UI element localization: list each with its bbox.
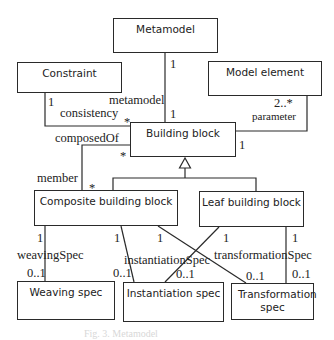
figure-caption: Fig. 3. Metamodel (84, 328, 158, 339)
mult-transformation-leaf: 1 (223, 232, 229, 244)
mult-member: * (89, 182, 95, 194)
class-constraint: Constraint (17, 62, 122, 93)
class-weaving-spec: Weaving spec (17, 281, 115, 320)
role-consistency: consistency (60, 107, 118, 119)
mult-instantiation-target-left: 0..1 (113, 267, 132, 279)
role-metamodel: metamodel (109, 94, 165, 106)
role-instantiationSpec: instantiationSpec (124, 254, 210, 266)
class-metamodel: Metamodel (113, 18, 218, 53)
mult-metamodel-top: 1 (170, 58, 176, 70)
uml-diagram: Metamodel Constraint Model element Build… (0, 0, 334, 340)
mult-weaving-source: 1 (37, 232, 43, 244)
role-weavingSpec: weavingSpec (17, 249, 84, 261)
class-instantiation-spec: Instantiation spec (123, 282, 224, 322)
mult-transformation-right-source: 1 (292, 232, 298, 244)
class-model-element: Model element (208, 61, 322, 96)
role-composedOf: composedOf (55, 132, 119, 144)
mult-model-element-bb: 1 (239, 139, 245, 151)
mult-instantiation-composite: 1 (114, 232, 120, 244)
class-leaf-building-block: Leaf building block (199, 191, 304, 227)
mult-transformation-target-left: 0..1 (246, 270, 265, 282)
class-transformation-spec: Transformation spec (231, 283, 314, 320)
mult-constraint-bb: * (124, 116, 130, 128)
mult-model-element: 2..* (274, 97, 293, 109)
role-parameter: parameter (252, 110, 296, 122)
mult-weaving-target: 0..1 (27, 267, 46, 279)
mult-instantiation-target-right: 0..1 (176, 268, 195, 280)
mult-transformation-composite: 1 (157, 232, 163, 244)
role-member: member (37, 172, 78, 184)
class-building-block: Building block (130, 122, 236, 157)
mult-composedOf: * (120, 150, 126, 162)
mult-transformation-target-right: 0..1 (292, 268, 311, 280)
class-composite-building-block: Composite building block (34, 190, 178, 226)
role-transformationSpec: transformationSpec (214, 249, 312, 261)
mult-metamodel-bottom: 1 (170, 108, 176, 120)
mult-constraint: 1 (48, 96, 54, 108)
